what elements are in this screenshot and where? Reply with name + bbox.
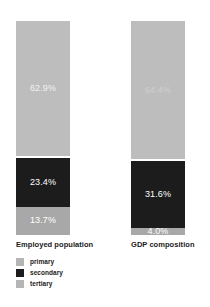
legend-swatch-icon [16, 269, 24, 277]
segment-value-label: 4.0% [148, 228, 169, 235]
legend-label: tertiary [30, 280, 52, 287]
segment-value-label: 64.4% [145, 86, 171, 95]
bar-segment-secondary[interactable]: 31.6% [131, 161, 185, 228]
legend-label: secondary [30, 269, 63, 276]
legend-label: primary [30, 258, 54, 265]
bar-segment-secondary[interactable]: 23.4% [16, 158, 70, 207]
legend-swatch-icon [16, 280, 24, 288]
legend-swatch-icon [16, 258, 24, 266]
bar-gdp-composition: 4.0% 31.6% 64.4% [131, 19, 185, 235]
segment-value-label: 31.6% [145, 190, 171, 199]
stacked-bar-chart: 13.7% 23.4% 62.9% 4.0% 31.6% 64.4% Emplo… [0, 0, 210, 307]
bar-segment-primary[interactable]: 13.7% [16, 207, 70, 235]
plot-area: 13.7% 23.4% 62.9% 4.0% 31.6% 64.4% [0, 0, 210, 237]
axis-label-gdp-composition: GDP composition [131, 240, 195, 249]
legend: primary secondary tertiary [16, 256, 136, 289]
axis-label-employed-population: Employed population [16, 240, 93, 249]
bar-employed-population: 13.7% 23.4% 62.9% [16, 19, 70, 235]
category-axis: Employed population GDP composition [0, 240, 210, 254]
bar-segment-primary[interactable]: 4.0% [131, 228, 185, 235]
bar-segment-tertiary[interactable]: 64.4% [131, 21, 185, 159]
segment-value-label: 23.4% [30, 178, 56, 187]
legend-item-secondary[interactable]: secondary [16, 267, 136, 278]
bar-segment-tertiary[interactable]: 62.9% [16, 21, 70, 155]
segment-value-label: 62.9% [30, 84, 56, 93]
legend-item-tertiary[interactable]: tertiary [16, 278, 136, 289]
segment-value-label: 13.7% [30, 216, 56, 225]
legend-item-primary[interactable]: primary [16, 256, 136, 267]
